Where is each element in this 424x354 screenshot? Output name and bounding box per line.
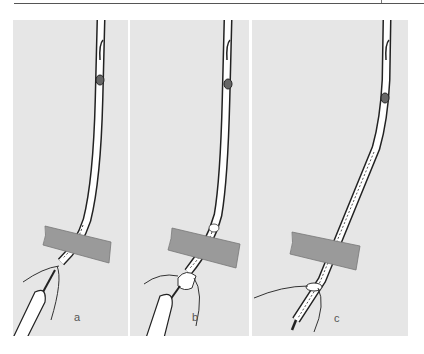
side-hole-icon bbox=[96, 75, 104, 85]
panel-label-c: c bbox=[334, 312, 340, 324]
header-rule bbox=[14, 3, 424, 4]
catheter-illustration-b bbox=[130, 20, 249, 336]
panel-label-a: a bbox=[74, 311, 80, 323]
fixation-band bbox=[168, 228, 240, 268]
side-hole-icon bbox=[224, 79, 232, 89]
panel-c: c bbox=[252, 20, 408, 336]
panel-a: a bbox=[13, 20, 128, 336]
catheter-illustration-a bbox=[13, 20, 128, 336]
panel-b: b bbox=[130, 20, 249, 336]
panel-label-b: b bbox=[192, 311, 198, 323]
catheter-illustration-c bbox=[252, 20, 408, 336]
header-tick bbox=[381, 0, 382, 3]
side-hole-icon bbox=[381, 93, 389, 103]
fixation-band bbox=[43, 226, 111, 263]
